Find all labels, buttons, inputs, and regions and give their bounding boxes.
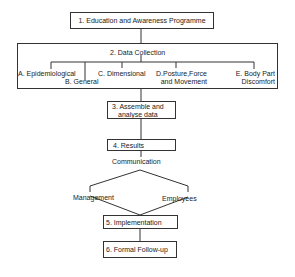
step-3-box: 3. Assemble and analyse data <box>107 101 176 119</box>
sub-item-a: A. Epidemiological <box>18 70 76 78</box>
sub-item-e-line2: Discomfort <box>225 78 275 86</box>
sub-item-b: B. General <box>65 78 98 86</box>
step-3-line1: 3. Assemble and <box>112 103 175 111</box>
sub-item-d-line2: and Movement <box>155 78 207 86</box>
step-6-label: 6. Formal Follow-up <box>106 246 168 253</box>
step-5-box: 5. Implementation <box>103 215 178 229</box>
communication-label: Communication <box>112 158 161 166</box>
step-4-box: 4. Results <box>107 139 176 151</box>
step-1-box: 1. Education and Awareness Programme <box>70 12 214 29</box>
step-2-label: 2. Data Collection <box>110 49 165 57</box>
step-4-label: 4. Results <box>113 142 144 149</box>
branch-employees: Employees <box>162 195 197 203</box>
sub-item-c: C. Dimensional <box>98 70 145 78</box>
step-1-label: 1. Education and Awareness Programme <box>78 17 205 24</box>
step-6-box: 6. Formal Follow-up <box>103 241 177 258</box>
sub-item-e-line1: E. Body Part <box>225 70 275 78</box>
sub-item-d: D.Posture,Force and Movement <box>155 70 207 86</box>
sub-item-e: E. Body Part Discomfort <box>225 70 275 86</box>
step-5-label: 5. Implementation <box>106 219 162 226</box>
branch-management: Management <box>73 194 114 202</box>
step-3-line2: analyse data <box>112 111 175 119</box>
sub-item-d-line1: D.Posture,Force <box>155 70 207 78</box>
flowchart: 1. Education and Awareness Programme 2. … <box>0 0 295 277</box>
